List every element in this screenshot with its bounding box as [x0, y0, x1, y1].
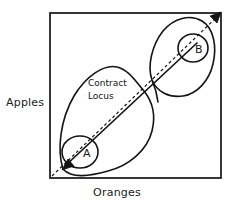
edgeworth-box-figure: A B Contract Locus Apples Oranges [0, 0, 234, 209]
contract-locus-label-line1: Contract [88, 78, 127, 88]
y-axis-label: Apples [6, 96, 44, 109]
x-axis-label: Oranges [0, 186, 234, 199]
diagonal-dashed-line [52, 15, 219, 176]
point-b-label: B [195, 43, 203, 56]
circle-b [178, 34, 208, 62]
contract-locus-label-line2: Locus [88, 91, 114, 101]
point-a-label: A [83, 147, 91, 160]
box-frame [50, 13, 221, 178]
